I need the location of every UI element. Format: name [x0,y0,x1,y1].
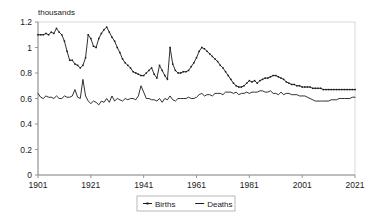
series-point [288,82,290,84]
series-point [132,71,134,73]
series-point [156,77,158,79]
series-point [238,86,240,88]
series-point [80,67,82,69]
series-point [109,31,111,33]
series-point [164,75,166,77]
series-point [140,75,142,77]
series-point [124,62,126,64]
series-point [37,34,39,36]
x-tick-label: 1961 [187,180,206,190]
series-point [185,71,187,73]
series-point [293,84,295,86]
x-tick-label: 2021 [346,180,365,190]
series-point [246,82,248,84]
series-point [349,89,351,91]
series-point [193,62,195,64]
series-point [212,56,214,58]
series-point [267,77,269,79]
series-point [74,63,76,65]
x-tick-label: 1941 [134,180,153,190]
series-point [333,89,335,91]
x-axis-ticks: 1901192119411961198120012021 [29,175,365,190]
series-point [175,70,177,72]
x-tick-label: 1921 [81,180,100,190]
series-point [312,88,314,90]
series-point [135,72,137,74]
series-point [315,88,317,90]
series-point [64,40,66,42]
series-point [272,75,274,77]
x-tick-label: 2001 [293,180,312,190]
series-point [61,34,63,36]
series-point [307,86,309,88]
series-point [77,65,79,67]
series-point [325,89,327,91]
series-point [222,67,224,69]
series-point [225,71,227,73]
legend-label-deaths: Deaths [207,200,232,209]
series-point [296,85,298,87]
series-point [336,89,338,91]
series-point [180,72,182,74]
series-point [58,31,60,33]
series-point [172,63,174,65]
series-point [167,79,169,81]
series-point [196,57,198,59]
y-tick-label: 0.6 [20,94,32,104]
x-tick-label: 1981 [240,180,259,190]
series-point [101,33,103,35]
series-point [320,88,322,90]
data-series-group [37,26,356,105]
series-point [53,33,55,35]
series-point [286,81,288,83]
series-point [354,89,356,91]
series-point [301,86,303,88]
series-point [183,71,185,73]
series-point [188,70,190,72]
series-point [117,47,119,49]
series-point [262,79,264,81]
x-tick-label: 1901 [29,180,48,190]
series-births [37,26,356,90]
series-point [344,89,346,91]
series-point [148,70,150,72]
chart-container: 00.20.40.60.811.2 1901192119411961198120… [0,0,372,220]
y-axis-ticks: 00.20.40.60.811.2 [20,17,38,180]
series-point [338,89,340,91]
series-point [40,34,42,36]
series-point [249,80,251,82]
series-point [95,47,97,49]
series-point [43,34,45,36]
series-point [264,77,266,79]
series-point [217,61,219,63]
series-point [270,76,272,78]
series-point [82,65,84,67]
series-deaths [38,79,355,105]
legend-marker-births [147,203,149,205]
y-tick-label: 0.8 [20,68,32,78]
series-point [209,53,211,55]
series-point [291,84,293,86]
y-tick-label: 0 [27,170,32,180]
series-point [259,80,261,82]
series-point [317,88,319,90]
series-point [190,66,192,68]
series-point [283,79,285,81]
plot-area-border [38,22,355,175]
line-chart: 00.20.40.60.811.2 1901192119411961198120… [0,0,372,220]
series-point [169,47,171,49]
series-point [69,60,71,62]
series-point [114,40,116,42]
series-point [299,85,301,87]
series-point [341,89,343,91]
series-point [220,65,222,67]
series-point [323,89,325,91]
series-point [153,74,155,76]
series-point [233,82,235,84]
series-point [328,89,330,91]
series-point [304,86,306,88]
series-point [201,47,203,49]
series-point [103,29,105,31]
series-point [254,80,256,82]
series-point [227,75,229,77]
